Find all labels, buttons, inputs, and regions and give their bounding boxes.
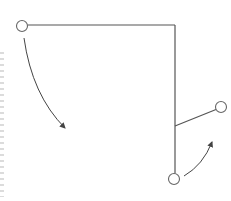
faint-rotated-edge-text	[0, 52, 4, 197]
right-node	[216, 102, 227, 113]
bottom-node	[169, 174, 180, 185]
left-node	[17, 21, 28, 32]
left-curved-arrow-icon	[24, 38, 65, 128]
tree-rotation-diagram	[0, 0, 231, 201]
branch-edge	[175, 110, 216, 127]
right-curved-arrow-icon	[184, 142, 212, 176]
